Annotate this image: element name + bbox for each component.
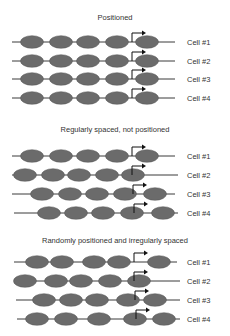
nucleosome <box>99 275 122 288</box>
nucleosome <box>51 256 74 269</box>
nucleosome <box>148 256 171 269</box>
nucleosome <box>106 55 129 68</box>
nucleosome <box>88 313 111 326</box>
nucleosome <box>124 313 147 326</box>
nucleosome <box>128 275 151 288</box>
nucleosome <box>153 313 176 326</box>
nucleosome <box>26 313 49 326</box>
nucleosome <box>31 188 54 201</box>
cell-row: Cell #3 <box>16 289 210 307</box>
nucleosome <box>26 256 49 269</box>
cell-label: Cell #2 <box>187 171 210 180</box>
nucleosome <box>14 169 37 182</box>
arrowhead-icon <box>144 202 148 207</box>
nucleosome <box>121 207 144 220</box>
nucleosome <box>136 150 159 163</box>
nucleosome <box>106 92 129 105</box>
nucleosome <box>77 92 100 105</box>
nucleosome <box>21 92 44 105</box>
nucleosome <box>108 256 131 269</box>
panel-title: Randomly positioned and irregularly spac… <box>42 236 188 245</box>
nucleosome <box>136 36 159 49</box>
nucleosome <box>106 150 129 163</box>
nucleosome <box>45 275 68 288</box>
nucleosome <box>136 73 159 86</box>
cell-label: Cell #3 <box>187 75 210 84</box>
cell-label: Cell #1 <box>187 258 210 267</box>
arrowhead-icon <box>142 31 146 36</box>
nucleosome <box>60 294 83 307</box>
cell-row: Cell #3 <box>12 68 210 86</box>
nucleosome <box>65 207 88 220</box>
nucleosome <box>21 73 44 86</box>
nucleosome <box>21 36 44 49</box>
cell-row: Cell #4 <box>17 308 210 326</box>
nucleosome <box>50 73 73 86</box>
cell-label: Cell #4 <box>187 94 210 103</box>
nucleosome <box>96 169 119 182</box>
nucleosome <box>59 188 82 201</box>
nucleosome <box>136 92 159 105</box>
nucleosome <box>33 294 56 307</box>
cell-row: Cell #1 <box>12 31 210 49</box>
cell-label: Cell #3 <box>187 190 210 199</box>
nucleosome <box>50 36 73 49</box>
arrowhead-icon <box>144 270 148 275</box>
nucleosome <box>77 36 100 49</box>
panel-title: Regularly spaced, not positioned <box>61 125 170 134</box>
nucleosome <box>50 92 73 105</box>
arrowhead-icon <box>142 50 146 55</box>
arrowhead-icon <box>146 308 150 313</box>
cell-row: Cell #4 <box>12 87 210 105</box>
nucleosome <box>86 294 109 307</box>
nucleosome <box>144 188 167 201</box>
nucleosome <box>21 55 44 68</box>
nucleosome <box>77 55 100 68</box>
cell-label: Cell #1 <box>187 38 210 47</box>
arrowhead-icon <box>145 289 149 294</box>
nucleosome <box>152 207 175 220</box>
nucleosome <box>106 36 129 49</box>
nucleosome <box>122 169 145 182</box>
nucleosome <box>77 150 100 163</box>
panel-title: Positioned <box>97 13 132 22</box>
cell-label: Cell #4 <box>187 315 210 324</box>
arrowhead-icon <box>142 145 146 150</box>
nucleosome <box>14 275 37 288</box>
panel-2: Regularly spaced, not positionedCell #1C… <box>12 125 210 219</box>
cell-row: Cell #2 <box>12 50 210 68</box>
nucleosome <box>50 55 73 68</box>
cell-label: Cell #1 <box>187 152 210 161</box>
arrowhead-icon <box>144 251 148 256</box>
nucleosome <box>68 169 91 182</box>
arrowhead-icon <box>143 183 147 188</box>
nucleosome <box>86 188 109 201</box>
nucleosome <box>83 256 106 269</box>
nucleosome <box>92 207 115 220</box>
nucleosome <box>42 169 65 182</box>
cell-row: Cell #3 <box>12 183 210 201</box>
arrowhead-icon <box>142 87 146 92</box>
nucleosome-positioning-diagram: PositionedCell #1Cell #2Cell #3Cell #4Re… <box>0 0 230 336</box>
arrowhead-icon <box>142 164 146 169</box>
arrowhead-icon <box>142 68 146 73</box>
nucleosome <box>21 150 44 163</box>
cell-label: Cell #2 <box>187 277 210 286</box>
nucleosome <box>144 294 167 307</box>
panel-1: PositionedCell #1Cell #2Cell #3Cell #4 <box>12 13 210 104</box>
cell-label: Cell #4 <box>187 209 210 218</box>
cell-row: Cell #1 <box>12 145 210 163</box>
cell-label: Cell #2 <box>187 57 210 66</box>
nucleosome <box>55 313 78 326</box>
nucleosome <box>38 207 61 220</box>
nucleosome <box>136 55 159 68</box>
cell-row: Cell #2 <box>14 270 211 288</box>
cell-label: Cell #3 <box>187 296 210 305</box>
nucleosome <box>50 150 73 163</box>
nucleosome <box>106 73 129 86</box>
nucleosome <box>117 294 140 307</box>
panel-3: Randomly positioned and irregularly spac… <box>14 236 211 325</box>
cell-row: Cell #4 <box>14 202 210 220</box>
nucleosome <box>70 275 93 288</box>
cell-row: Cell #2 <box>12 164 210 182</box>
